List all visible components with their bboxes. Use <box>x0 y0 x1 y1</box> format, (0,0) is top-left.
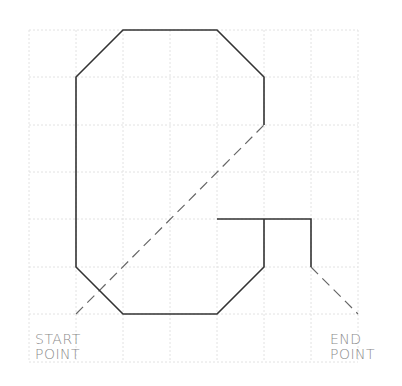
end-point-label: END POINT <box>330 332 375 362</box>
letter-g-stroke-diagram <box>0 0 402 386</box>
end-dashed-lead-out <box>311 267 358 314</box>
start-label-line1: START <box>35 332 81 347</box>
start-point-label: START POINT <box>35 332 81 362</box>
end-label-line2: POINT <box>330 347 375 362</box>
end-label-line1: END <box>330 332 375 347</box>
start-label-line2: POINT <box>35 347 81 362</box>
